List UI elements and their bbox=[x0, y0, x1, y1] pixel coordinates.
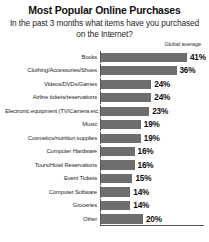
bar-row: Electronic equipment (TV/Camera etc.)23% bbox=[5, 105, 204, 117]
bar-track: 41% bbox=[100, 51, 206, 63]
bar-track: 19% bbox=[100, 118, 204, 130]
bar-track: 36% bbox=[100, 64, 204, 76]
bar-track: 19% bbox=[100, 132, 204, 144]
bar-value-label: 24% bbox=[154, 80, 170, 89]
bar-track: 24% bbox=[100, 78, 204, 90]
bar-category-label: Computer Hardware bbox=[5, 148, 100, 155]
bar bbox=[101, 53, 187, 62]
bar-value-label: 16% bbox=[138, 147, 154, 156]
bar-category-label: Clothing/Accessories/Shoes bbox=[5, 67, 100, 74]
bar-row: Cosmetics/nutrition supplies19% bbox=[5, 132, 204, 144]
chart-card: Most Popular Online Purchases In the pas… bbox=[0, 0, 209, 242]
bar bbox=[101, 66, 177, 75]
bar-track: 14% bbox=[100, 199, 204, 211]
bar bbox=[101, 187, 130, 196]
bar bbox=[101, 214, 143, 223]
chart-legend: Global average bbox=[5, 40, 204, 51]
bar bbox=[101, 120, 141, 129]
bar bbox=[101, 160, 135, 169]
bar-category-label: Airline tickets/reservations bbox=[5, 94, 100, 101]
bar-track: 24% bbox=[100, 91, 204, 103]
bar bbox=[101, 134, 141, 143]
bar-value-label: 24% bbox=[154, 93, 170, 102]
bar-category-label: Electronic equipment (TV/Camera etc.) bbox=[5, 108, 100, 115]
bar-category-label: Tours/Hotel Reservations bbox=[5, 162, 100, 169]
bar-chart-plot: Books41%Clothing/Accessories/Shoes36%Vid… bbox=[5, 51, 204, 225]
bar-category-label: Other bbox=[5, 216, 100, 223]
bar-value-label: 41% bbox=[190, 53, 206, 62]
bar-track: 14% bbox=[100, 186, 204, 198]
bar-value-label: 36% bbox=[180, 66, 196, 75]
chart-subtitle: In the past 3 months what items have you… bbox=[5, 18, 204, 39]
bar-category-label: Videos/DVDs/Games bbox=[5, 81, 100, 88]
axis-baseline bbox=[100, 225, 204, 226]
bar bbox=[101, 201, 130, 210]
bar bbox=[101, 80, 151, 89]
bar bbox=[101, 174, 132, 183]
bar-row: Videos/DVDs/Games24% bbox=[5, 78, 204, 90]
bar-value-label: 14% bbox=[133, 201, 149, 210]
bar-row: Books41% bbox=[5, 51, 204, 63]
bar-value-label: 15% bbox=[135, 174, 151, 183]
bar-category-label: Cosmetics/nutrition supplies bbox=[5, 135, 100, 142]
bar-row: Computer Hardware16% bbox=[5, 145, 204, 157]
bar bbox=[101, 93, 151, 102]
bar-track: 23% bbox=[100, 105, 204, 117]
bar-row: Groceries14% bbox=[5, 199, 204, 211]
bar-row: Clothing/Accessories/Shoes36% bbox=[5, 64, 204, 76]
bar-category-label: Music bbox=[5, 121, 100, 128]
legend-label-global-average: Global average bbox=[164, 41, 201, 47]
bar-track: 20% bbox=[100, 213, 204, 225]
bar-row: Music19% bbox=[5, 118, 204, 130]
bar-row: Event Tickets15% bbox=[5, 172, 204, 184]
page-title: Most Popular Online Purchases bbox=[5, 4, 204, 16]
bar-value-label: 19% bbox=[144, 134, 160, 143]
bar-track: 16% bbox=[100, 145, 204, 157]
bar-category-label: Event Tickets bbox=[5, 175, 100, 182]
bar-value-label: 14% bbox=[133, 188, 149, 197]
bar-category-label: Computer Software bbox=[5, 189, 100, 196]
bar-value-label: 19% bbox=[144, 120, 160, 129]
bar-value-label: 23% bbox=[152, 107, 168, 116]
bar-track: 15% bbox=[100, 172, 204, 184]
bar bbox=[101, 147, 135, 156]
bar-row: Other20% bbox=[5, 213, 204, 225]
bar-track: 16% bbox=[100, 159, 204, 171]
bar-value-label: 16% bbox=[138, 161, 154, 170]
bar-category-label: Groceries bbox=[5, 202, 100, 209]
bar-row: Tours/Hotel Reservations16% bbox=[5, 159, 204, 171]
bar-category-label: Books bbox=[5, 54, 100, 61]
bar-row: Computer Software14% bbox=[5, 186, 204, 198]
bar-row: Airline tickets/reservations24% bbox=[5, 91, 204, 103]
bar bbox=[101, 107, 149, 116]
bar-value-label: 20% bbox=[146, 215, 162, 224]
